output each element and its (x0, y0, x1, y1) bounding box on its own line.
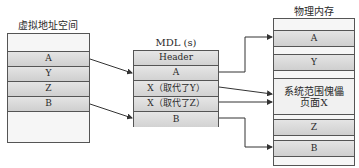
arrow-mdl-b-to-physical-b (219, 118, 272, 147)
arrow-mdl-a-to-physical-a (219, 37, 272, 72)
arrow-virtual-b-to-mdl-b (90, 104, 132, 118)
arrow-virtual-a-to-mdl-a (90, 59, 132, 73)
connector-arrows (0, 0, 359, 168)
arrow-mdl-xy-to-dummy-page (219, 87, 272, 94)
